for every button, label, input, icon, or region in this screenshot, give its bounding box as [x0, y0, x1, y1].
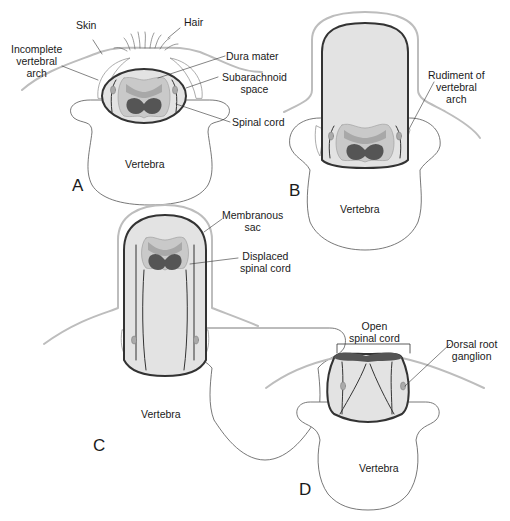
open-cord-bracket	[337, 344, 410, 353]
panel-letter-c: C	[93, 436, 105, 456]
label-vertebra-a: Vertebra	[125, 158, 165, 170]
label-subarachnoid-space: Subarachnoid space	[222, 71, 287, 95]
label-hair: Hair	[184, 16, 203, 28]
label-vertebra-b: Vertebra	[340, 203, 380, 215]
label-dura-mater: Dura mater	[226, 50, 279, 62]
label-dorsal-root-ganglion: Dorsal root ganglion	[446, 338, 497, 362]
panel-c	[44, 205, 345, 460]
open-cord-d	[327, 354, 409, 422]
label-vertebra-d: Vertebra	[359, 462, 399, 474]
label-membranous-sac: Membranous sac	[222, 209, 283, 233]
label-vertebra-c: Vertebra	[141, 408, 181, 420]
label-rudiment-vertebral-arch: Rudiment of vertebral arch	[428, 69, 485, 105]
label-open-spinal-cord: Open spinal cord	[349, 320, 400, 344]
panel-letter-a: A	[72, 176, 83, 196]
panel-letter-d: D	[299, 480, 311, 500]
label-incomplete-vertebral-arch: Incomplete vertebral arch	[11, 43, 62, 79]
panel-letter-b: B	[289, 181, 300, 201]
label-skin: Skin	[76, 19, 96, 31]
panel-b	[284, 12, 480, 250]
label-displaced-spinal-cord: Displaced spinal cord	[240, 250, 291, 274]
label-spinal-cord: Spinal cord	[232, 116, 285, 128]
